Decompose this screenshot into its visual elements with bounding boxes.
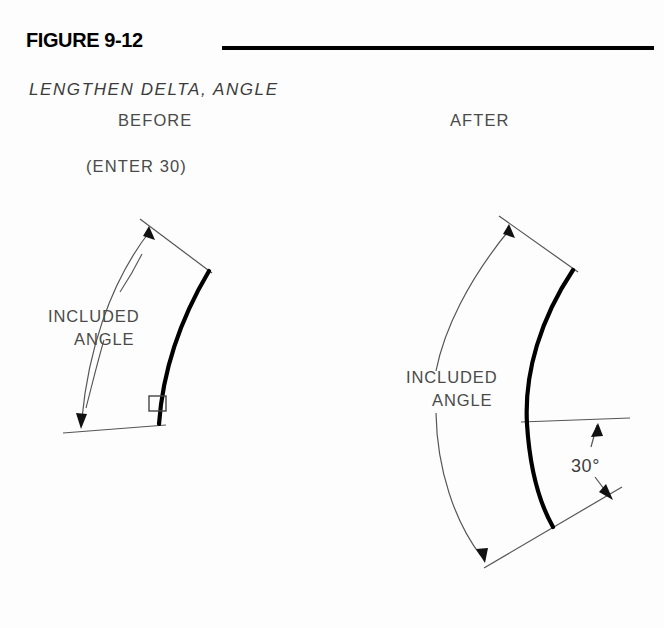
before-lower-radius-line bbox=[63, 425, 166, 433]
after-delta-arrow-upper bbox=[591, 423, 603, 437]
after-annotation-line2: ANGLE bbox=[432, 391, 492, 409]
after-arc-arrow-lower bbox=[476, 548, 488, 563]
after-object-arc bbox=[527, 270, 573, 527]
after-delta-reference-line bbox=[521, 418, 630, 422]
after-delta-arrow-lower bbox=[599, 484, 613, 500]
after-diagram: INCLUDED ANGLE 30° bbox=[406, 216, 630, 568]
after-included-angle-arc-lower bbox=[436, 413, 481, 556]
figure-page: FIGURE 9-12 LENGTHEN DELTA, ANGLE BEFORE… bbox=[0, 0, 664, 628]
after-upper-radius-line bbox=[499, 216, 578, 272]
before-diagram: INCLUDED ANGLE bbox=[48, 219, 212, 433]
before-annotation-line1: INCLUDED bbox=[48, 307, 140, 325]
figure-drawing: INCLUDED ANGLE INCLUDED ANGLE bbox=[0, 0, 664, 628]
before-upper-radius-line bbox=[140, 219, 212, 273]
before-arc-arrow-lower bbox=[76, 413, 87, 429]
after-included-angle-arc-upper bbox=[436, 229, 510, 371]
before-annotation-line2: ANGLE bbox=[74, 330, 134, 348]
after-annotation-line1: INCLUDED bbox=[406, 368, 498, 386]
after-delta-label: 30° bbox=[571, 456, 600, 476]
